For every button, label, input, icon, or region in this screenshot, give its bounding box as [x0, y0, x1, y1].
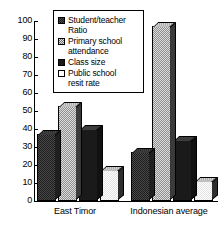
bar-side-face — [170, 22, 176, 200]
bar-side-face — [118, 166, 124, 200]
legend-item[interactable]: Primary school attendance — [58, 36, 140, 56]
y-axis-tick-label: 50 — [4, 106, 32, 115]
y-axis-tick — [34, 21, 38, 22]
y-axis-tick-label: 40 — [4, 124, 32, 133]
legend-swatch-icon — [58, 17, 65, 24]
y-axis-tick — [34, 75, 38, 76]
y-axis-labels: 0102030405060708090100 — [0, 0, 32, 226]
y-axis-tick — [34, 57, 38, 58]
y-axis-tick-label: 30 — [4, 142, 32, 151]
legend-swatch-icon — [58, 38, 65, 45]
y-axis-tick-label: 20 — [4, 160, 32, 169]
chart-legend: Student/teacher RatioPrimary school atte… — [53, 10, 144, 93]
y-axis-tick — [34, 201, 38, 202]
bar-chart: 0102030405060708090100 East Timor Indone… — [0, 0, 222, 226]
y-axis-tick — [34, 111, 38, 112]
y-axis-tick-label: 100 — [4, 16, 32, 25]
bar-side-face — [55, 130, 61, 200]
category-label-0: East Timor — [30, 206, 120, 216]
bar — [37, 134, 56, 201]
bar — [131, 152, 150, 201]
y-axis-tick-label: 60 — [4, 88, 32, 97]
y-axis-tick-label: 80 — [4, 52, 32, 61]
legend-label: Primary school attendance — [68, 36, 122, 56]
bar-side-face — [149, 148, 155, 200]
y-axis-tick — [34, 93, 38, 94]
legend-item[interactable]: Public school resit rate — [58, 68, 140, 88]
bar-side-face — [97, 125, 103, 200]
legend-swatch-icon — [58, 70, 65, 77]
y-axis-tick-label: 70 — [4, 70, 32, 79]
bar-side-face — [76, 102, 82, 200]
legend-swatch-icon — [58, 59, 65, 66]
legend-item[interactable]: Class size — [58, 57, 140, 67]
bar-side-face — [191, 136, 197, 200]
y-axis-tick-label: 0 — [4, 196, 32, 205]
legend-label: Public school resit rate — [68, 68, 116, 88]
y-axis-tick — [34, 129, 38, 130]
y-axis-tick-label: 10 — [4, 178, 32, 187]
legend-label: Class size — [68, 57, 105, 67]
y-axis-tick-label: 90 — [4, 34, 32, 43]
legend-item[interactable]: Student/teacher Ratio — [58, 15, 140, 35]
x-axis-line — [34, 201, 218, 202]
category-label-1: Indonesian average — [118, 206, 220, 216]
y-axis-tick — [34, 39, 38, 40]
bar-side-face — [212, 177, 218, 200]
legend-label: Student/teacher Ratio — [68, 15, 126, 35]
